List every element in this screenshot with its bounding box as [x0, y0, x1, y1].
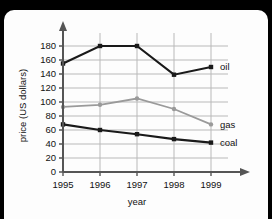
- data-point-oil-1997: [135, 44, 139, 48]
- chart-svg: 020406080100120140160180 199519961997199…: [4, 10, 268, 219]
- y-axis-tick-label: 160: [40, 54, 56, 65]
- x-axis-title: year: [128, 196, 146, 207]
- data-point-gas-1996: [98, 103, 102, 107]
- x-axis-tick-label: 1998: [163, 179, 184, 190]
- x-axis-tick-label: 1997: [126, 179, 147, 190]
- line-chart: 020406080100120140160180 199519961997199…: [4, 10, 268, 219]
- data-point-gas-1997: [135, 96, 139, 100]
- y-axis-tick-label: 140: [40, 68, 56, 79]
- axes: [59, 21, 250, 176]
- x-axis-ticks: 19951996199719981999: [52, 172, 221, 190]
- data-point-oil-1999: [209, 65, 213, 69]
- y-axis-ticks: 020406080100120140160180: [40, 40, 63, 177]
- x-axis-tick-label: 1999: [200, 179, 221, 190]
- gridlines: [63, 46, 228, 172]
- y-axis-tick-label: 120: [40, 82, 56, 93]
- data-point-coal-1996: [98, 128, 102, 132]
- data-point-coal-1997: [135, 132, 139, 136]
- chart-card: 020406080100120140160180 199519961997199…: [4, 10, 268, 219]
- x-axis-tick-label: 1996: [89, 179, 110, 190]
- x-axis-tick-label: 1995: [52, 179, 73, 190]
- y-axis-arrow-icon: [59, 21, 67, 31]
- y-axis-tick-label: 80: [45, 110, 56, 121]
- x-axis-arrow-icon: [240, 168, 250, 176]
- data-point-coal-1998: [172, 137, 176, 141]
- y-axis-tick-label: 20: [45, 152, 56, 163]
- y-axis-tick-label: 40: [45, 138, 56, 149]
- data-point-coal-1999: [209, 140, 213, 144]
- series-label-gas: gas: [220, 119, 236, 130]
- series-label-coal: coal: [220, 137, 237, 148]
- y-axis-tick-label: 60: [45, 124, 56, 135]
- data-point-oil-1998: [172, 73, 176, 77]
- series-label-oil: oil: [220, 61, 230, 72]
- y-axis-tick-label: 0: [51, 166, 56, 177]
- data-point-gas-1998: [172, 107, 176, 111]
- data-point-oil-1996: [98, 44, 102, 48]
- y-axis-title: price (US dollars): [17, 69, 28, 142]
- y-axis-tick-label: 100: [40, 96, 56, 107]
- y-axis-tick-label: 180: [40, 40, 56, 51]
- data-point-gas-1999: [209, 122, 213, 126]
